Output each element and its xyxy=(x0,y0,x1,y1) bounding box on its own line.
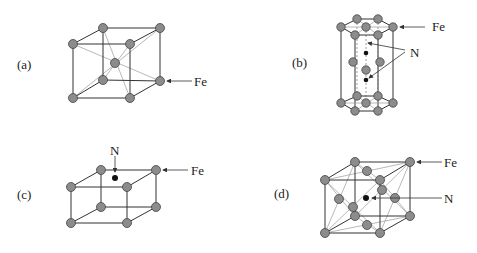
n-label-b: N xyxy=(410,45,420,60)
fe-atoms-a xyxy=(69,24,165,103)
panel-b: (b) xyxy=(292,15,445,115)
crystal-structures-figure: (a) Fe (b xyxy=(0,0,477,253)
panel-d: (d) xyxy=(274,155,457,238)
panel-label-d: (d) xyxy=(274,186,289,201)
fe-label-a: Fe xyxy=(194,74,207,89)
panel-label-a: (a) xyxy=(17,57,31,72)
n-atom-c xyxy=(112,175,118,181)
n-atom-d xyxy=(363,195,369,201)
panel-label-b: (b) xyxy=(292,55,307,70)
fe-label-b: Fe xyxy=(432,19,445,34)
n-label-d: N xyxy=(444,191,454,206)
fe-label-d: Fe xyxy=(444,155,457,170)
panel-label-c: (c) xyxy=(17,187,31,202)
fe-label-c: Fe xyxy=(191,163,204,178)
panel-c: (c) N Fe xyxy=(17,143,204,228)
panel-a: (a) Fe xyxy=(17,24,207,103)
n-label-c: N xyxy=(110,143,120,158)
